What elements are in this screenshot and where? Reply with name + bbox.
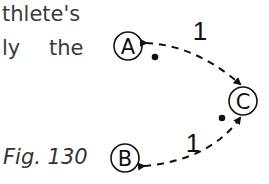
athlete-path-diagram: A C B 1 1 [0, 0, 269, 184]
edge-label-upper: 1 [193, 16, 207, 46]
svg-text:A: A [121, 35, 136, 59]
node-b: B [111, 144, 139, 172]
dashed-arrow-a-c [146, 43, 240, 84]
svg-text:B: B [118, 147, 132, 171]
position-dot-a [152, 54, 159, 61]
edge-label-lower: 1 [186, 128, 200, 158]
svg-text:C: C [236, 90, 251, 114]
position-dot-c [219, 115, 226, 122]
node-c: C [229, 87, 257, 115]
node-a: A [114, 32, 142, 60]
